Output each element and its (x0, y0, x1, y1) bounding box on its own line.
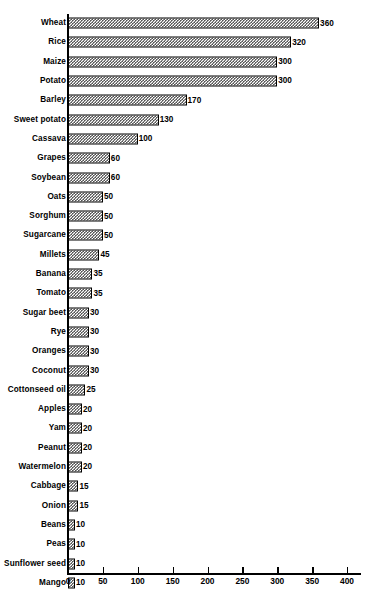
bar-group: 60 (68, 153, 120, 164)
category-label: Sorghum (29, 212, 66, 220)
x-axis-tick (138, 567, 139, 573)
bar (68, 500, 78, 511)
bar-row: Onion15 (0, 496, 381, 515)
category-label: Sugar beet (23, 309, 66, 317)
bar-value-label: 60 (111, 173, 120, 181)
bar-value-label: 60 (111, 154, 120, 162)
x-axis-tick (173, 567, 174, 573)
bar (68, 423, 82, 434)
x-axis-tick-label: 300 (270, 577, 284, 585)
bar-group: 30 (68, 365, 99, 376)
bar (68, 519, 75, 530)
bar (68, 153, 110, 164)
bar-value-label: 20 (83, 444, 92, 452)
bar-row: Sweet potato130 (0, 110, 381, 129)
bar-row: Sugar beet30 (0, 303, 381, 322)
bar-group: 30 (68, 346, 99, 357)
bar (68, 442, 82, 453)
bar (68, 230, 103, 241)
category-label: Peanut (38, 444, 66, 452)
bar-row: Rye30 (0, 322, 381, 341)
category-label: Watermelon (18, 463, 66, 471)
category-label: Apples (38, 405, 66, 413)
x-axis-tick (103, 567, 104, 573)
y-axis-line (67, 14, 69, 574)
x-axis-tick (347, 567, 348, 573)
bar-row: Yam20 (0, 419, 381, 438)
bar-value-label: 10 (76, 540, 85, 548)
x-axis-tick (208, 567, 209, 573)
bar-row: Maize300 (0, 52, 381, 71)
bar-value-label: 10 (76, 559, 85, 567)
bar-value-label: 50 (104, 231, 113, 239)
bar (68, 172, 110, 183)
bar-value-label: 130 (160, 116, 174, 124)
x-axis-line (67, 573, 361, 575)
bar-group: 20 (68, 404, 92, 415)
bar-row: Cabbage15 (0, 477, 381, 496)
category-label: Wheat (41, 19, 66, 27)
bar-group: 100 (68, 133, 152, 144)
bar-group: 15 (68, 481, 89, 492)
bar-group: 10 (68, 539, 85, 550)
bar-group: 360 (68, 18, 334, 29)
plot-area: Wheat360Rice320Maize300Potato300Barley17… (0, 0, 381, 606)
bar-group: 170 (68, 95, 201, 106)
bar (68, 269, 92, 280)
bar-row: Banana35 (0, 264, 381, 283)
bar-chart: Wheat360Rice320Maize300Potato300Barley17… (0, 0, 381, 606)
bar-value-label: 45 (100, 251, 109, 259)
bar-row: Millets45 (0, 245, 381, 264)
category-label: Maize (43, 58, 66, 66)
bar-group: 30 (68, 326, 99, 337)
x-axis-tick (68, 567, 69, 573)
bar (68, 76, 277, 87)
bar-group: 25 (68, 384, 96, 395)
bar (68, 37, 291, 48)
bar-row: Tomato35 (0, 284, 381, 303)
category-label: Oranges (32, 347, 66, 355)
bar (68, 249, 99, 260)
bar-row: Oranges30 (0, 342, 381, 361)
bar-row: Beans10 (0, 515, 381, 534)
bar-value-label: 300 (278, 77, 292, 85)
category-label: Peas (46, 540, 66, 548)
x-axis-tick (312, 567, 313, 573)
bar-value-label: 10 (76, 579, 85, 587)
bar-value-label: 20 (83, 463, 92, 471)
bar-group: 50 (68, 211, 113, 222)
category-label: Cassava (32, 135, 66, 143)
bar-value-label: 360 (320, 19, 334, 27)
bar-row: Peanut20 (0, 438, 381, 457)
bar-group: 20 (68, 442, 92, 453)
x-axis-tick (242, 567, 243, 573)
bar-value-label: 300 (278, 58, 292, 66)
x-axis-tick-label: 250 (235, 577, 249, 585)
bar-value-label: 100 (139, 135, 153, 143)
bar (68, 288, 92, 299)
category-label: Soybean (31, 173, 66, 181)
category-label: Sugarcane (23, 231, 66, 239)
category-label: Yam (49, 424, 66, 432)
category-label: Onion (42, 502, 66, 510)
category-label: Barley (40, 96, 66, 104)
category-label: Oats (47, 193, 66, 201)
bar-group: 10 (68, 519, 85, 530)
bar-value-label: 30 (90, 366, 99, 374)
category-label: Potato (40, 77, 66, 85)
bar-row: Sorghum50 (0, 207, 381, 226)
x-axis-tick-label: 0 (66, 577, 71, 585)
bar-value-label: 15 (79, 502, 88, 510)
category-label: Rye (51, 328, 66, 336)
bar-value-label: 50 (104, 193, 113, 201)
bar (68, 211, 103, 222)
bar-group: 35 (68, 269, 103, 280)
bar-value-label: 20 (83, 405, 92, 413)
x-axis-tick-label: 50 (98, 577, 107, 585)
bar (68, 346, 89, 357)
bar-row: Cottonseed oil25 (0, 380, 381, 399)
bar-value-label: 15 (79, 482, 88, 490)
bar-value-label: 320 (292, 38, 306, 46)
x-axis-tick-label: 100 (131, 577, 145, 585)
category-label: Tomato (36, 289, 66, 297)
